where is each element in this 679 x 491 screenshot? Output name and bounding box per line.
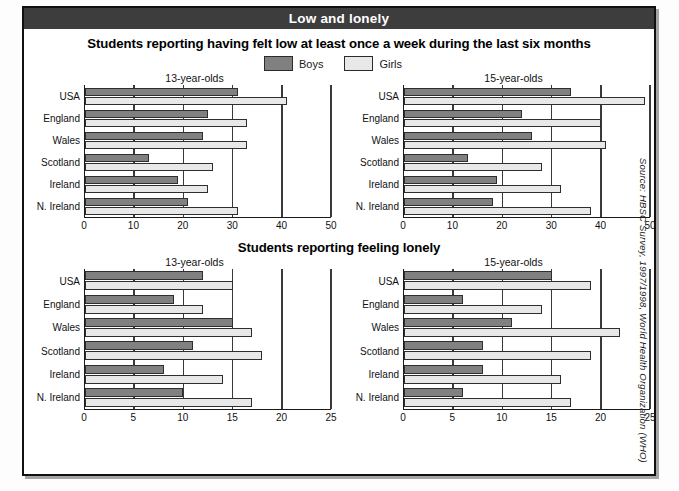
bar-boys — [85, 88, 238, 96]
legend-label-girls: Girls — [379, 58, 402, 70]
gridline — [330, 269, 332, 409]
chart-legend: Boys Girls — [24, 56, 654, 71]
bar-girls — [404, 351, 591, 360]
charts-row-top: 13-year-olds USAEnglandWalesScotlandIrel… — [24, 71, 654, 234]
gridline — [649, 269, 651, 409]
bar-girls — [404, 185, 561, 193]
gridline — [281, 269, 283, 409]
x-tick-label: 0 — [81, 220, 87, 231]
category-label: USA — [59, 91, 80, 102]
chart-subtitle: 15-year-olds — [377, 255, 650, 269]
legend-swatch-boys — [264, 56, 293, 71]
x-tick-label: 30 — [227, 220, 238, 231]
charts-row-bottom: 13-year-olds USAEnglandWalesScotlandIrel… — [24, 255, 654, 426]
category-label: Scotland — [41, 345, 80, 356]
bar-girls — [85, 185, 208, 193]
bar-boys — [404, 198, 493, 206]
bar-boys — [85, 388, 183, 397]
bar-boys — [85, 132, 203, 140]
category-axis: USAEnglandWalesScotlandIrelandN. Ireland — [345, 85, 403, 217]
bar-boys — [404, 271, 552, 280]
chart-subtitle: 13-year-olds — [58, 255, 331, 269]
category-label: Ireland — [368, 369, 399, 380]
gridline — [551, 85, 553, 217]
bar-boys — [85, 176, 178, 184]
bar-boys — [404, 365, 483, 374]
gridline — [600, 269, 602, 409]
bar-boys — [404, 132, 532, 140]
bar-boys — [404, 176, 497, 184]
bar-girls — [85, 375, 223, 384]
bar-girls — [404, 328, 620, 337]
x-tick-label: 10 — [128, 220, 139, 231]
plot-area: USAEnglandWalesScotlandIrelandN. Ireland — [26, 269, 331, 409]
source-note: Source: HBSC Survey, 1997/1998, World He… — [638, 158, 649, 463]
legend-entry-girls: Girls — [344, 56, 402, 71]
bar-girls — [404, 207, 591, 215]
gridline — [502, 85, 504, 217]
x-axis: 01020304050 — [403, 217, 650, 234]
x-tick-label: 25 — [325, 412, 336, 423]
bar-boys — [85, 365, 164, 374]
chart-low-13: 13-year-olds USAEnglandWalesScotlandIrel… — [26, 71, 331, 234]
bar-girls — [85, 119, 247, 127]
section-title-2: Students reporting feeling lonely — [24, 240, 654, 255]
bar-boys — [85, 154, 149, 162]
banner-title: Low and lonely — [24, 8, 654, 29]
bar-girls — [404, 375, 561, 384]
infographic-frame: Low and lonely Students reporting having… — [22, 6, 656, 476]
x-axis: 01020304050 — [84, 217, 331, 234]
plot-canvas — [403, 269, 650, 409]
plot-canvas — [84, 85, 331, 217]
category-label: Ireland — [49, 179, 80, 190]
x-tick-label: 10 — [447, 220, 458, 231]
category-label: Scotland — [41, 157, 80, 168]
category-label: N. Ireland — [356, 392, 399, 403]
x-axis: 0510152025 — [403, 409, 650, 426]
gridline — [649, 85, 651, 217]
category-label: Ireland — [368, 179, 399, 190]
bar-boys — [404, 110, 522, 118]
x-tick-label: 20 — [595, 412, 606, 423]
category-axis: USAEnglandWalesScotlandIrelandN. Ireland — [345, 269, 403, 409]
category-label: England — [362, 113, 399, 124]
chart-subtitle: 13-year-olds — [58, 71, 331, 85]
plot-area: USAEnglandWalesScotlandIrelandN. Ireland — [26, 85, 331, 217]
bar-boys — [85, 198, 188, 206]
x-tick-label: 5 — [450, 412, 456, 423]
legend-swatch-girls — [344, 56, 373, 71]
x-tick-label: 10 — [177, 412, 188, 423]
category-label: Scotland — [360, 157, 399, 168]
category-label: N. Ireland — [356, 201, 399, 212]
bar-girls — [404, 119, 601, 127]
bar-girls — [85, 97, 287, 105]
bar-girls — [404, 97, 645, 105]
category-label: Wales — [372, 322, 399, 333]
bar-boys — [85, 271, 203, 280]
category-label: Wales — [53, 135, 80, 146]
legend-entry-boys: Boys — [264, 56, 323, 71]
plot-canvas — [84, 269, 331, 409]
category-label: N. Ireland — [37, 392, 80, 403]
bar-girls — [85, 351, 262, 360]
legend-label-boys: Boys — [299, 58, 323, 70]
bar-boys — [85, 341, 193, 350]
plot-area: USAEnglandWalesScotlandIrelandN. Ireland — [345, 85, 650, 217]
bar-girls — [85, 328, 252, 337]
chart-subtitle: 15-year-olds — [377, 71, 650, 85]
x-tick-label: 20 — [496, 220, 507, 231]
category-label: N. Ireland — [37, 201, 80, 212]
infographic-page: Low and lonely Students reporting having… — [0, 0, 679, 491]
x-tick-label: 15 — [546, 412, 557, 423]
category-label: Scotland — [360, 345, 399, 356]
x-tick-label: 15 — [227, 412, 238, 423]
category-label: England — [43, 113, 80, 124]
x-tick-label: 0 — [400, 220, 406, 231]
category-label: England — [362, 299, 399, 310]
chart-lonely-15: 15-year-olds USAEnglandWalesScotlandIrel… — [345, 255, 650, 426]
bar-girls — [404, 163, 542, 171]
bar-boys — [85, 318, 233, 327]
x-tick-label: 20 — [276, 412, 287, 423]
x-axis: 0510152025 — [84, 409, 331, 426]
category-axis: USAEnglandWalesScotlandIrelandN. Ireland — [26, 85, 84, 217]
